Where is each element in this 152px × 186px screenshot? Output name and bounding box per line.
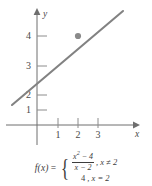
- x-tick-label-1: 1: [56, 129, 61, 140]
- fraction-numerator: x2 − 4: [72, 153, 94, 162]
- rational-expression: x2 − 4 x − 2: [72, 153, 94, 173]
- case-2-value: 4: [81, 174, 85, 183]
- piecewise-formula: f(x) = { x2 − 4 x − 2 , x ≠ 2 4 , x = 2: [35, 153, 118, 183]
- y-tick-label-1: 1: [26, 104, 31, 115]
- y-tick-label-4: 4: [26, 30, 31, 41]
- y-tick-label-3: 3: [26, 60, 31, 71]
- x-tick-label-3: 3: [96, 129, 101, 140]
- case-row-2: 4 , x = 2: [72, 174, 117, 183]
- function-definition: f(x) = { x2 − 4 x − 2 , x ≠ 2 4 , x = 2: [0, 148, 152, 186]
- point-marker-2-4: [75, 33, 81, 39]
- x-axis-arrow-icon: [133, 122, 140, 129]
- coordinate-graph: 4 3 2 1 1 2 3 y x: [0, 0, 152, 148]
- function-line: [12, 11, 123, 105]
- cases-group: x2 − 4 x − 2 , x ≠ 2 4 , x = 2: [72, 153, 117, 183]
- numerator-remainder: − 4: [80, 152, 93, 161]
- case-1-condition: , x ≠ 2: [96, 158, 117, 167]
- case-2-condition: , x = 2: [87, 174, 109, 183]
- x-tick-label-2: 2: [76, 129, 81, 140]
- case-row-1: x2 − 4 x − 2 , x ≠ 2: [72, 153, 117, 173]
- y-axis-arrow-icon: [34, 8, 41, 15]
- piecewise-function-figure: 4 3 2 1 1 2 3 y x f(x) = { x2 −: [0, 0, 152, 186]
- function-name-label: f(x): [35, 163, 49, 173]
- equals-sign: =: [51, 163, 56, 173]
- x-axis-label: x: [134, 129, 140, 139]
- y-axis-label: y: [42, 9, 48, 19]
- left-brace: {: [61, 158, 69, 178]
- fraction-denominator: x − 2: [74, 164, 93, 173]
- graph-plot-area: 4 3 2 1 1 2 3 y x: [0, 0, 152, 148]
